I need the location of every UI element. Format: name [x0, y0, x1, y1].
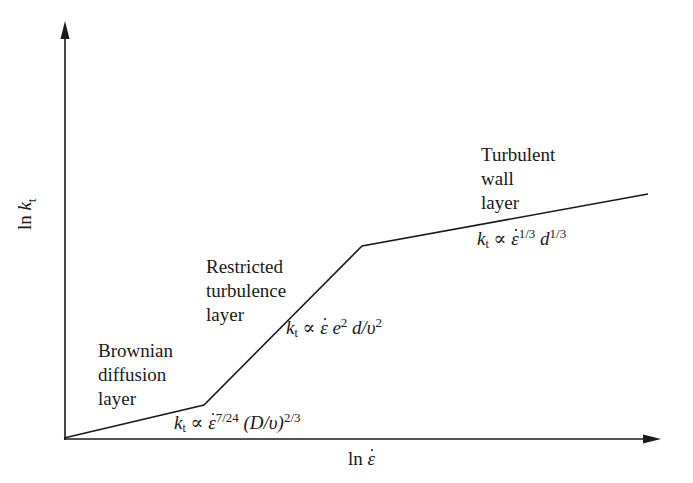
proportional-symbol: ∝ — [494, 228, 507, 249]
relation-exponent: 2 — [341, 315, 348, 330]
y-axis-label: ln kt — [14, 199, 40, 230]
relation-exponent: 2/3 — [284, 410, 301, 425]
x-axis-label: ln ε — [348, 448, 375, 470]
strain-rate-symbol: ε — [320, 317, 328, 338]
x-axis-label-var: ε — [368, 448, 376, 469]
relation-lhs-sub: t — [485, 237, 488, 251]
relation-factor: d/υ — [352, 317, 376, 338]
region-label-line: Turbulent — [481, 143, 555, 167]
proportional-symbol: ∝ — [303, 317, 316, 338]
x-axis-label-prefix: ln — [348, 448, 363, 469]
region-label-line: layer — [206, 303, 286, 327]
relation-exponent: 1/3 — [550, 226, 567, 241]
y-axis-label-var: k — [14, 202, 35, 210]
region-label-line: Brownian — [98, 339, 173, 363]
relation-exponent: 7/24 — [216, 410, 239, 425]
relation-exponent: 2 — [376, 315, 383, 330]
relation-exponent: 1/3 — [519, 226, 536, 241]
region-label-turbulent-wall: Turbulent wall layer — [481, 143, 555, 215]
relation-lhs-sub: t — [294, 326, 297, 340]
region-label-line: diffusion — [98, 363, 173, 387]
y-axis-arrowhead-icon — [61, 21, 70, 39]
region-label-line: layer — [98, 387, 173, 411]
region-label-restricted: Restricted turbulence layer — [206, 255, 286, 327]
strain-rate-symbol: ε — [511, 228, 519, 249]
region-label-line: Restricted — [206, 255, 286, 279]
region-label-line: layer — [481, 191, 555, 215]
region-label-line: turbulence — [206, 279, 286, 303]
proportional-symbol: ∝ — [191, 412, 204, 433]
region-label-brownian: Brownian diffusion layer — [98, 339, 173, 411]
relation-restricted: kt ∝ ε e2 d/υ2 — [286, 315, 382, 341]
relation-factor: d — [540, 228, 550, 249]
y-axis-label-prefix: ln — [14, 215, 35, 230]
region-label-line: wall — [481, 167, 555, 191]
strain-rate-symbol: ε — [208, 412, 216, 433]
relation-brownian: kt ∝ ε7/24 (D/υ)2/3 — [174, 410, 301, 436]
relation-turbulent-wall: kt ∝ ε1/3 d1/3 — [477, 226, 566, 252]
relation-factor: e — [332, 317, 340, 338]
relation-lhs-sub: t — [182, 421, 185, 435]
x-axis-arrowhead-icon — [643, 435, 661, 444]
relation-factor: (D/υ) — [244, 412, 284, 433]
y-axis-label-sub: t — [25, 199, 39, 202]
